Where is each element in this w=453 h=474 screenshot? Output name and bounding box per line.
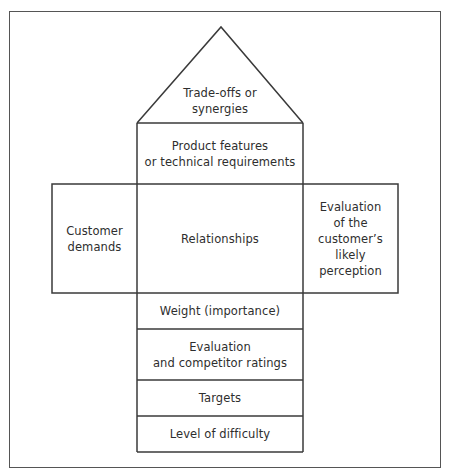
left-wall-customer-demands-label: Customer demands <box>52 184 137 293</box>
basement-evaluation-ratings-label: Evaluation and competitor ratings <box>137 329 303 380</box>
basement-targets-label: Targets <box>137 380 303 416</box>
ceiling-product-features-label: Product features or technical requiremen… <box>137 123 303 184</box>
basement-weight-label: Weight (importance) <box>137 293 303 329</box>
basement-level-of-difficulty-label: Level of difficulty <box>137 416 303 452</box>
center-relationships-label: Relationships <box>137 184 303 293</box>
roof-trade-offs-label: Trade-offs or synergies <box>150 78 290 123</box>
right-wall-evaluation-label: Evaluation of the customer’s likely perc… <box>303 184 398 293</box>
